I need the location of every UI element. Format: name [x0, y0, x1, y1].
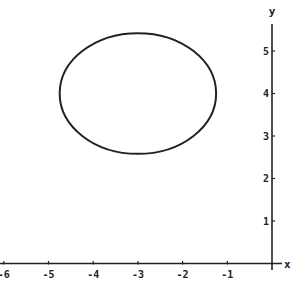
ticks: -6-5-4-3-2-112345 — [0, 46, 275, 280]
ellipse-curve — [60, 33, 216, 154]
data-series — [60, 33, 216, 154]
x-tick-label: -1 — [221, 269, 233, 280]
x-tick-label: -6 — [0, 269, 10, 280]
y-tick-label: 3 — [263, 131, 269, 142]
x-tick-label: -2 — [177, 269, 189, 280]
x-tick-label: -3 — [132, 269, 144, 280]
x-tick-label: -5 — [42, 269, 54, 280]
y-tick-label: 1 — [263, 216, 269, 227]
y-tick-label: 2 — [263, 173, 269, 184]
axes — [0, 24, 282, 270]
y-tick-label: 5 — [263, 46, 269, 57]
y-axis-label: y — [269, 5, 276, 18]
plot-canvas: -6-5-4-3-2-112345 x y — [0, 0, 293, 290]
x-axis-label: x — [284, 258, 291, 271]
y-tick-label: 4 — [263, 88, 269, 99]
x-tick-label: -4 — [87, 269, 99, 280]
